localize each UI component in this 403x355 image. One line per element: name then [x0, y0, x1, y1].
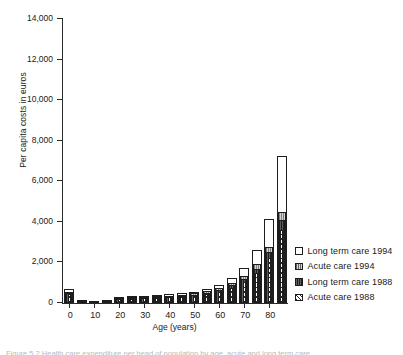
- x-axis-tick: 20: [119, 303, 120, 308]
- x-axis-tick-label: 80: [265, 310, 275, 320]
- bar: [243, 282, 246, 303]
- bar: [168, 297, 171, 303]
- legend-swatch-icon: [295, 294, 303, 302]
- bar: [80, 301, 83, 303]
- bar: [118, 299, 121, 303]
- x-axis-tick-label: 60: [215, 310, 225, 320]
- bar: [218, 292, 221, 303]
- bar: [268, 258, 271, 303]
- bar: [155, 298, 158, 303]
- y-axis-tick: 14,000: [57, 18, 63, 19]
- bar: [205, 294, 208, 303]
- y-axis-tick-label: 0: [48, 297, 53, 307]
- bar: [143, 298, 146, 303]
- bar: [105, 301, 108, 303]
- legend-item[interactable]: Acute care 1994: [295, 259, 403, 275]
- x-axis-tick-label: 10: [90, 310, 100, 320]
- bar: [130, 299, 133, 303]
- x-axis-tick-label: 20: [115, 310, 125, 320]
- x-axis-tick: 60: [219, 303, 220, 308]
- bar: [180, 297, 183, 303]
- x-axis-tick: 40: [169, 303, 170, 308]
- y-axis-tick-label: 4,000: [32, 216, 53, 226]
- x-axis-tick: 80: [269, 303, 270, 308]
- y-axis-tick-label: 6,000: [32, 175, 53, 185]
- legend-item-label: Acute care 1994: [308, 261, 375, 271]
- x-axis-tick-label: 70: [240, 310, 250, 320]
- x-axis-tick-label: 50: [190, 310, 200, 320]
- chart-figure: Per capita costs in euros 02,0004,0006,0…: [0, 0, 403, 355]
- legend-item[interactable]: Acute care 1988: [295, 290, 403, 306]
- bar: [230, 288, 233, 303]
- y-axis-tick: 10,000: [57, 99, 63, 100]
- y-axis-tick: 4,000: [57, 221, 63, 222]
- y-axis-tick: 12,000: [57, 59, 63, 60]
- plot-area: 02,0004,0006,0008,00010,00012,00014,0000…: [62, 19, 288, 304]
- x-axis-tick: 0: [69, 303, 70, 308]
- y-axis-tick: 6,000: [57, 180, 63, 181]
- legend-item-label: Long term care 1994: [308, 246, 393, 256]
- bar: [280, 230, 283, 303]
- x-axis-tick-label: 30: [140, 310, 150, 320]
- y-axis-tick: 2,000: [57, 261, 63, 262]
- bar: [93, 301, 96, 303]
- chart-legend: Long term care 1994Acute care 1994Long t…: [295, 243, 403, 305]
- legend-swatch-icon: [295, 263, 303, 271]
- x-axis-title: Age (years): [62, 322, 287, 332]
- legend-swatch-icon: [295, 247, 303, 255]
- y-axis-tick-label: 8,000: [32, 135, 53, 145]
- x-axis-tick: 30: [144, 303, 145, 308]
- x-axis-tick-label: 40: [165, 310, 175, 320]
- legend-item[interactable]: Long term care 1988: [295, 274, 403, 290]
- x-axis-tick: 70: [244, 303, 245, 308]
- legend-item[interactable]: Long term care 1994: [295, 243, 403, 259]
- x-axis-tick: 50: [194, 303, 195, 308]
- legend-item-label: Acute care 1988: [308, 292, 375, 302]
- y-axis-tick-label: 12,000: [27, 54, 53, 64]
- x-axis-tick-label: 0: [68, 310, 73, 320]
- y-axis-tick: 8,000: [57, 140, 63, 141]
- y-axis-tick-label: 14,000: [27, 13, 53, 23]
- legend-item-label: Long term care 1988: [308, 277, 393, 287]
- y-axis-tick-label: 10,000: [27, 94, 53, 104]
- y-axis-tick-label: 2,000: [32, 256, 53, 266]
- figure-caption: Figure 5.2 Health care expenditure per h…: [6, 349, 398, 355]
- legend-swatch-icon: [295, 278, 303, 286]
- x-axis-tick: 10: [94, 303, 95, 308]
- bar: [193, 296, 196, 303]
- y-axis-tick: 0: [57, 302, 63, 303]
- bar: [255, 273, 258, 303]
- bar: [68, 294, 71, 303]
